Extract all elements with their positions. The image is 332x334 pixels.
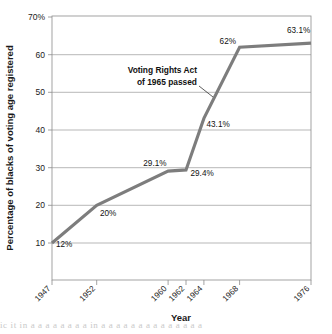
plot-area-background xyxy=(52,16,311,280)
line-chart-svg: 70% 60 50 40 30 20 10 1947 1952 1960 196… xyxy=(0,0,332,334)
data-label-1968: 62% xyxy=(220,37,236,46)
y-axis-title: Percentage of blacks of voting age regis… xyxy=(4,45,15,251)
y-tick-labels: 70% 60 50 40 30 20 10 xyxy=(28,12,45,248)
data-label-1976: 63.1% xyxy=(287,26,310,35)
x-tick-label-1947: 1947 xyxy=(33,284,53,304)
data-label-1960: 29.1% xyxy=(143,159,166,168)
x-tick-label-1968: 1968 xyxy=(221,284,241,304)
x-tick-label-1952: 1952 xyxy=(78,284,98,304)
annotation-line-2: of 1965 passed xyxy=(137,77,197,87)
data-label-1952: 20% xyxy=(100,209,116,218)
chart-figure: 70% 60 50 40 30 20 10 1947 1952 1960 196… xyxy=(0,0,332,334)
data-label-1947: 12% xyxy=(56,240,72,249)
x-tick-label-1960: 1960 xyxy=(149,284,169,304)
data-label-1962: 29.4% xyxy=(191,169,214,178)
x-tick-labels: 1947 1952 1960 1962 1964 1968 1976 xyxy=(33,284,312,304)
annotation-line-1: Voting Rights Act xyxy=(128,65,198,75)
x-tick-label-1964: 1964 xyxy=(185,284,205,304)
y-tick-marks xyxy=(48,17,52,243)
y-tick-label-70: 70% xyxy=(28,12,45,22)
y-tick-label-60: 60 xyxy=(36,50,46,60)
x-tick-label-1976: 1976 xyxy=(292,284,312,304)
x-tick-label-1962: 1962 xyxy=(167,284,187,304)
page-bleed-text: ic it in a a a a a a a a in a a a a a a … xyxy=(0,320,332,334)
data-label-1964: 43.1% xyxy=(207,120,230,129)
y-tick-label-50: 50 xyxy=(36,87,46,97)
y-tick-label-30: 30 xyxy=(36,163,46,173)
y-tick-label-40: 40 xyxy=(36,125,46,135)
y-tick-label-10: 10 xyxy=(36,238,46,248)
y-tick-label-20: 20 xyxy=(36,200,46,210)
